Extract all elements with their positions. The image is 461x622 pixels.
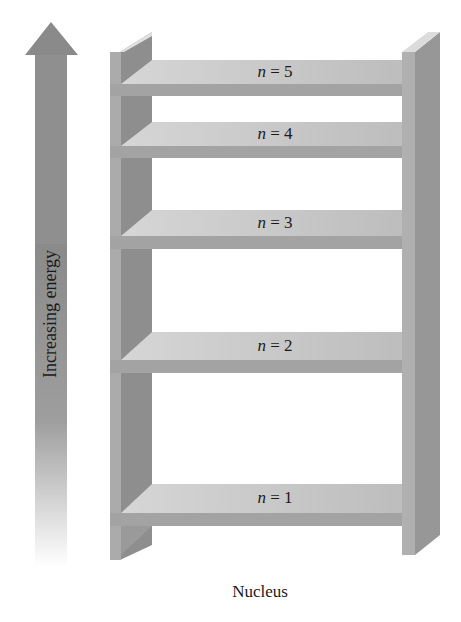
level-label-n5: n = 5: [257, 62, 292, 82]
left-post: [110, 32, 152, 560]
level-label-n1: n = 1: [257, 488, 292, 508]
bookcase-diagram: [0, 0, 461, 622]
level-label-n2: n = 2: [257, 336, 292, 356]
nucleus-label: Nucleus: [232, 582, 288, 602]
level-label-n4: n = 4: [257, 124, 292, 144]
increasing-energy-label: Increasing energy: [40, 250, 61, 378]
level-label-n3: n = 3: [257, 213, 292, 233]
right-post: [402, 32, 440, 555]
